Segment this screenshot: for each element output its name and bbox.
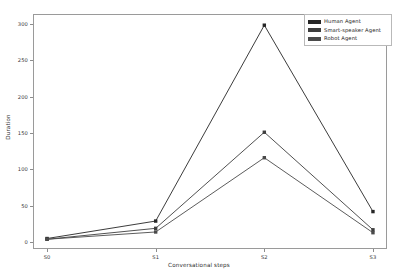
series-human-agent (45, 23, 374, 240)
series-line (47, 158, 373, 240)
series-smart-speaker-agent (45, 131, 374, 241)
y-tick-label: 100 (6, 166, 28, 172)
legend-label: Smart-speaker Agent (324, 27, 381, 34)
plot-area (33, 14, 387, 249)
x-tick-label: S0 (35, 254, 59, 260)
y-tick-label: 250 (6, 57, 28, 63)
legend-label: Human Agent (324, 18, 361, 25)
data-point-marker (263, 23, 266, 26)
legend-item: Smart-speaker Agent (308, 27, 388, 34)
data-point-marker (154, 219, 157, 222)
legend-item: Robot Agent (308, 35, 388, 42)
y-tick-label: 0 (6, 239, 28, 245)
series-line (47, 25, 373, 238)
x-tick-mark (264, 249, 265, 252)
data-point-marker (263, 131, 266, 134)
y-tick-label: 50 (6, 203, 28, 209)
x-axis-title: Conversational steps (0, 262, 398, 268)
series-robot-agent (45, 156, 374, 241)
data-point-marker (371, 210, 374, 213)
legend-item: Human Agent (308, 18, 388, 25)
data-point-marker (45, 238, 48, 241)
x-tick-label: S3 (361, 254, 385, 260)
x-tick-mark (156, 249, 157, 252)
x-tick-label: S1 (144, 254, 168, 260)
x-tick-mark (373, 249, 374, 252)
data-point-marker (154, 230, 157, 233)
line-chart-figure: 050100150200250300 S0S1S2S3 Duration Con… (0, 0, 398, 278)
legend: Human AgentSmart-speaker AgentRobot Agen… (304, 14, 392, 46)
x-tick-mark (47, 249, 48, 252)
legend-swatch-icon (308, 20, 321, 24)
y-tick-label: 300 (6, 21, 28, 27)
data-point-marker (263, 156, 266, 159)
y-axis-title: Duration (5, 101, 11, 153)
series-line (47, 132, 373, 239)
y-tick-label: 200 (6, 94, 28, 100)
legend-swatch-icon (308, 37, 321, 41)
data-point-marker (154, 227, 157, 230)
series-layer (34, 15, 386, 248)
data-point-marker (371, 228, 374, 231)
x-tick-label: S2 (252, 254, 276, 260)
legend-label: Robot Agent (324, 35, 357, 42)
data-point-marker (371, 231, 374, 234)
legend-swatch-icon (308, 28, 321, 32)
